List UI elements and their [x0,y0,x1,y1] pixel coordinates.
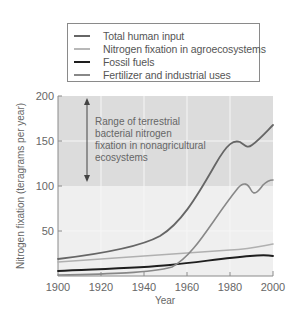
x-tick-label: 1960 [175,281,199,293]
x-tick-label: 1940 [132,281,156,293]
y-axis-title: Nitrogen fixation (teragrams per year) [15,103,26,269]
x-tick-label: 1900 [46,281,70,293]
annotation-line: fixation in nonagricultural [95,140,206,151]
y-tick-label: 50 [42,225,54,237]
annotation-line: ecosystems [95,152,148,163]
x-tick-label: 2000 [261,281,285,293]
x-tick-label: 1980 [218,281,242,293]
x-tick-label: 1920 [89,281,113,293]
y-tick-label: 100 [36,180,54,192]
y-tick-label: 150 [36,135,54,147]
y-tick-label: 200 [36,90,54,102]
annotation-line: bacterial nitrogen [95,128,172,139]
annotation-line: Range of terrestrial [95,116,180,127]
line-chart: 50 100 150 200 1900 1920 1940 1960 1980 … [0,0,298,314]
x-axis-title: Year [155,295,176,306]
